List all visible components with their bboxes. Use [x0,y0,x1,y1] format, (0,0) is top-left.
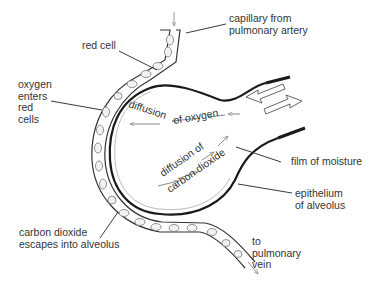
label-co2-escapes: carbon dioxide escapes into alveolus [19,227,119,250]
label-capillary-from-artery: capillary from pulmonary artery [229,13,308,36]
label-to-pulmonary-vein: to pulmonary vein [252,236,301,271]
alveolus-wall [110,77,305,215]
label-epithelium: epithelium of alveolus [295,188,345,211]
label-red-cell: red cell [82,40,116,52]
label-film-of-moisture: film of moisture [291,156,362,168]
label-oxygen-enters: oxygen enters red cells [18,79,52,125]
